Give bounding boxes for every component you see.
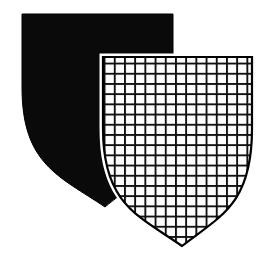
heraldic-shields-illustration [0,0,271,262]
image-canvas [0,0,271,262]
